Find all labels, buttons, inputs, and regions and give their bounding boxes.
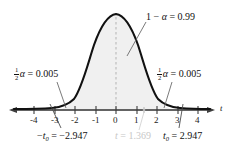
xtick-label-minus2: -2 xyxy=(71,116,79,125)
right-critical-value-label: t0 = 2.947 xyxy=(163,131,202,142)
confidence-value: 0.99 xyxy=(178,11,196,22)
x-axis-variable-label: t xyxy=(220,104,222,113)
xtick-label-minus4: -4 xyxy=(30,116,38,125)
xtick-label-4: 4 xyxy=(195,116,200,125)
xtick-label-2: 2 xyxy=(154,116,159,125)
left-tail-equals: = xyxy=(25,68,36,79)
right-tail-leader-line xyxy=(164,82,172,108)
left-tail-leader-line xyxy=(57,82,66,108)
fraction-numerator: 1 xyxy=(157,67,162,74)
xtick-label-1: 1 xyxy=(134,116,139,125)
xtick-label-minus3: -3 xyxy=(51,116,59,125)
right-tail-equals: = xyxy=(168,68,179,79)
one-half-fraction: 12 xyxy=(157,67,162,81)
confidence-prefix: 1 − xyxy=(146,11,162,22)
test-statistic-equals: = xyxy=(118,130,129,141)
right-tail-area-label: 12α = 0.005 xyxy=(157,67,201,81)
left-critical-value: −2.947 xyxy=(59,130,87,141)
right-critical-value: 2.947 xyxy=(180,130,203,141)
right-tail-value: 0.005 xyxy=(179,68,202,79)
test-statistic-label: t = 1.369 xyxy=(115,131,151,141)
right-critical-equals: = xyxy=(169,130,180,141)
left-critical-value-label: −t0 = −2.947 xyxy=(37,131,87,142)
t-distribution-figure: 1 − α = 0.99 12α = 0.005 12α = 0.005 -4 … xyxy=(0,0,232,152)
fraction-denominator: 2 xyxy=(157,74,162,82)
left-critical-equals: = xyxy=(49,130,60,141)
left-tail-area-label: 12α = 0.005 xyxy=(14,67,58,81)
confidence-level-label: 1 − α = 0.99 xyxy=(146,12,195,22)
test-statistic-leader-line xyxy=(139,112,144,130)
left-tail-value: 0.005 xyxy=(36,68,59,79)
fraction-numerator: 1 xyxy=(14,67,19,74)
xtick-label-3: 3 xyxy=(175,116,180,125)
one-half-fraction: 12 xyxy=(14,67,19,81)
fraction-denominator: 2 xyxy=(14,74,19,82)
test-statistic-value: 1.369 xyxy=(128,130,151,141)
confidence-equals: = xyxy=(167,11,178,22)
xtick-label-0: 0 xyxy=(113,116,118,125)
xtick-label-minus1: -1 xyxy=(92,116,100,125)
